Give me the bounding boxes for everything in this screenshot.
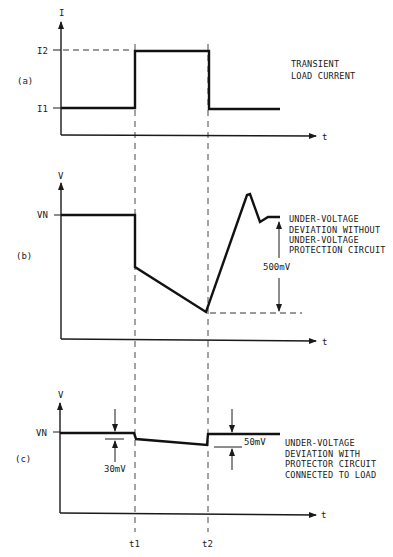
caption-c-line3: PROTECTOR CIRCUIT <box>285 459 376 469</box>
x-axis-c <box>60 513 316 515</box>
caption-c-line2: DEVIATION WITH <box>285 449 360 459</box>
panel-b-label: (b) <box>16 251 32 261</box>
t1-label: t1 <box>129 539 140 549</box>
x-axis-label-c: t <box>321 510 326 520</box>
caption-c-line1: UNDER-VOLTAGE <box>285 438 355 448</box>
panel-c-label: (c) <box>15 454 31 464</box>
caption-b-line1: UNDER-VOLTAGE <box>289 214 359 224</box>
x-axis-a <box>61 135 316 136</box>
panel-a: (a) I t I2 I1 TRANSIENT LOAD CURRENT <box>17 8 356 142</box>
caption-b-line3: UNDER-VOLTAGE <box>289 235 359 245</box>
deviation-500mv-label: 500mV <box>263 262 291 272</box>
caption-b-line2: DEVIATION WITHOUT <box>289 225 380 235</box>
caption-c-line4: CONNECTED TO LOAD <box>285 470 376 480</box>
level-label-i2: I2 <box>37 46 48 56</box>
caption-b-line4: PROTECTION CIRCUIT <box>289 245 386 255</box>
level-label-vn-c: VN <box>36 428 47 438</box>
x-axis-b <box>61 339 316 341</box>
panel-c: (c) V t VN 30mV 50mV UNDER-VOLTAGE DEVIA… <box>15 390 376 520</box>
y-axis-label-b: V <box>58 171 64 181</box>
y-axis-label-a: I <box>59 8 64 18</box>
transient-response-diagram: t1 t2 (a) I t I2 I1 TRANSIENT LOAD CURRE… <box>0 0 393 557</box>
panel-a-label: (a) <box>17 76 33 86</box>
x-axis-label-b: t <box>322 337 327 347</box>
t2-label: t2 <box>202 539 213 549</box>
level-label-i1: I1 <box>37 104 48 114</box>
panel-b: (b) V t VN 500mV UNDER-VOLTAGE DEVIATION… <box>16 171 386 347</box>
caption-a-line2: LOAD CURRENT <box>291 71 356 81</box>
drop-30mv-label: 30mV <box>104 464 126 474</box>
y-axis-label-c: V <box>58 390 64 400</box>
rise-50mv-label: 50mV <box>244 437 266 447</box>
caption-a-line1: TRANSIENT <box>291 59 339 69</box>
x-axis-label-a: t <box>322 132 327 142</box>
voltage-waveform-unprotected <box>61 194 280 312</box>
current-waveform <box>61 51 280 109</box>
level-label-vn-b: VN <box>37 210 48 220</box>
